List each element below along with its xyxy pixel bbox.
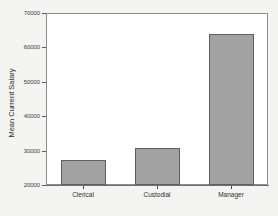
x-axis-category-label: Custodial bbox=[122, 191, 192, 199]
x-axis-tick bbox=[231, 186, 232, 189]
y-axis-tick-label: 50000 bbox=[0, 79, 40, 85]
y-axis-tick bbox=[42, 151, 46, 152]
y-axis-tick-label: 20000 bbox=[0, 182, 40, 188]
chart-screenshot: 200003000040000500006000070000 Mean Curr… bbox=[0, 0, 278, 216]
x-axis-category-label: Manager bbox=[196, 191, 266, 199]
y-axis-tick bbox=[42, 47, 46, 48]
x-axis-category-label: Clerical bbox=[48, 191, 118, 199]
y-axis-tick bbox=[42, 82, 46, 83]
y-axis-tick bbox=[42, 185, 46, 186]
y-axis-tick-label: 60000 bbox=[0, 44, 40, 50]
x-axis-tick bbox=[83, 186, 84, 189]
bar bbox=[135, 148, 180, 185]
y-axis-tick-label: 70000 bbox=[0, 10, 40, 16]
bar bbox=[61, 160, 106, 185]
y-axis-tick-label: 40000 bbox=[0, 113, 40, 119]
y-axis-line bbox=[46, 13, 47, 186]
y-axis-tick-label: 30000 bbox=[0, 148, 40, 154]
y-axis-tick-labels: 200003000040000500006000070000 bbox=[0, 0, 40, 216]
y-axis-tick bbox=[42, 116, 46, 117]
y-axis-title: Mean Current Salary bbox=[8, 43, 16, 163]
bar bbox=[209, 34, 254, 185]
x-axis-tick bbox=[157, 186, 158, 189]
y-axis-tick bbox=[42, 13, 46, 14]
